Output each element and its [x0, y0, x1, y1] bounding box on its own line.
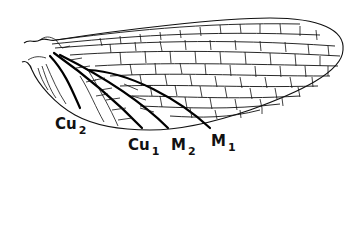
label-cu1: Cu1 — [128, 138, 159, 157]
label-m2: M2 — [171, 138, 196, 157]
label-cu2-base: Cu — [55, 115, 77, 133]
vein-m1 — [88, 70, 210, 128]
label-cu1-base: Cu — [128, 136, 150, 154]
label-cu2-sub: 2 — [79, 124, 87, 137]
label-m1-sub: 1 — [228, 141, 236, 154]
label-cu2: Cu2 — [55, 117, 86, 136]
label-m1: M1 — [211, 134, 236, 153]
label-m2-base: M — [171, 136, 186, 154]
label-cu1-sub: 1 — [152, 145, 160, 158]
label-m2-sub: 2 — [188, 145, 196, 158]
label-m1-base: M — [211, 132, 226, 150]
